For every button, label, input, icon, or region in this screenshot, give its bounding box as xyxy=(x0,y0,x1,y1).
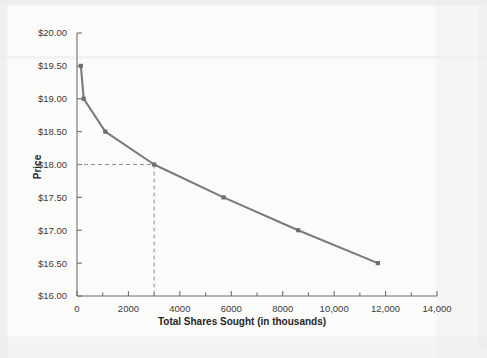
data-point-marker xyxy=(221,195,225,199)
x-tick-label: 0 xyxy=(74,303,79,314)
y-tick-label: $18.00 xyxy=(38,159,67,170)
x-tick-label: 4000 xyxy=(169,303,190,314)
data-point-marker xyxy=(296,228,300,232)
data-point-marker xyxy=(376,261,380,265)
x-tick-label: 2000 xyxy=(118,303,139,314)
x-axis-title: Total Shares Sought (in thousands) xyxy=(158,316,326,327)
x-axis-tick-labels: 0200040006000800010,00012,00014,000 xyxy=(74,303,451,314)
y-tick-label: $18.50 xyxy=(38,126,67,137)
data-point-marker xyxy=(79,64,83,68)
demand-curve-line xyxy=(81,66,378,263)
x-tick-label: 6000 xyxy=(221,303,242,314)
y-tick-label: $20.00 xyxy=(38,27,67,38)
x-axis-tick-marks xyxy=(77,291,437,296)
y-tick-label: $19.50 xyxy=(38,60,67,71)
data-point-marker xyxy=(82,97,86,101)
y-axis-tick-labels: $16.00$16.50$17.00$17.50$18.00$18.50$19.… xyxy=(38,27,67,301)
y-tick-label: $17.50 xyxy=(38,192,67,203)
y-tick-label: $16.00 xyxy=(38,290,67,301)
x-tick-label: 8000 xyxy=(272,303,293,314)
y-tick-label: $16.50 xyxy=(38,258,67,269)
y-tick-label: $17.00 xyxy=(38,225,67,236)
price-vs-shares-chart: Price Total Shares Sought (in thousands)… xyxy=(0,0,487,358)
y-tick-label: $19.00 xyxy=(38,93,67,104)
x-tick-label: 14,000 xyxy=(422,303,451,314)
x-tick-label: 10,000 xyxy=(320,303,349,314)
figure-page: Price Total Shares Sought (in thousands)… xyxy=(0,0,487,358)
demand-curve-markers xyxy=(79,64,380,265)
x-tick-label: 12,000 xyxy=(371,303,400,314)
data-point-marker xyxy=(103,130,107,134)
data-point-marker xyxy=(152,162,156,166)
